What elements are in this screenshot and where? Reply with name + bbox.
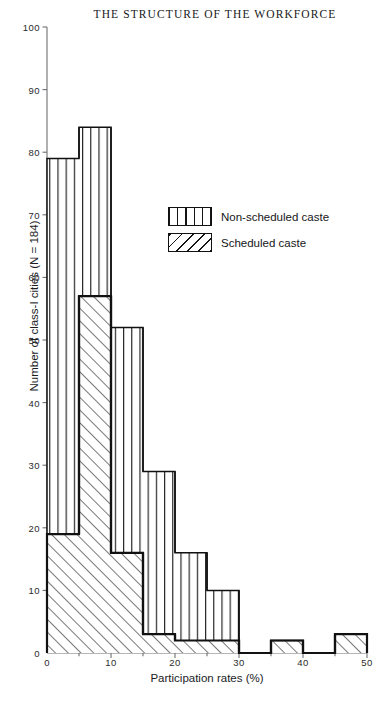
plot-area: [0, 0, 381, 705]
legend-swatch-vertical-lines: [168, 207, 212, 226]
legend-swatch-diagonal-lines: [168, 233, 212, 252]
legend-item-non-scheduled: Non-scheduled caste: [168, 206, 329, 227]
legend-label-scheduled: Scheduled caste: [221, 237, 306, 249]
legend-label-non-scheduled: Non-scheduled caste: [221, 211, 329, 223]
histogram-figure: THE STRUCTURE OF THE WORKFORCE Number of…: [0, 0, 381, 705]
legend-item-scheduled: Scheduled caste: [168, 232, 329, 253]
legend: Non-scheduled caste Scheduled caste: [168, 206, 329, 258]
